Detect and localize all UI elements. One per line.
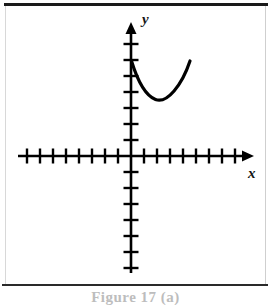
figure-caption: Figure 17 (a) bbox=[0, 289, 271, 305]
y-axis-arrowhead bbox=[126, 22, 137, 34]
y-axis-label: y bbox=[142, 12, 149, 27]
coordinate-plot bbox=[0, 0, 271, 305]
x-axis-arrowhead bbox=[242, 151, 254, 162]
x-axis-group bbox=[18, 149, 254, 164]
x-axis-label: x bbox=[248, 166, 256, 181]
parabola-curve bbox=[132, 61, 191, 100]
figure-panel: y x Figure 17 (a) bbox=[0, 0, 271, 305]
